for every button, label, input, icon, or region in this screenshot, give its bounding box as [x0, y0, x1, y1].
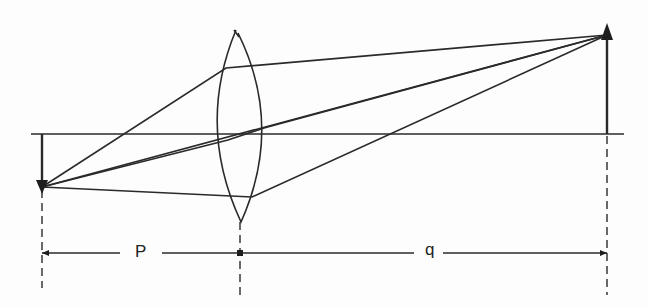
diagram-svg [0, 0, 648, 307]
lens-ray-diagram: P q [0, 0, 648, 307]
p-left-arrowhead-icon [42, 250, 49, 256]
q-distance-label: q [421, 241, 438, 259]
q-right-arrowhead-icon [600, 250, 607, 256]
image-arrowhead-icon [601, 23, 613, 40]
lens-dimension-marker [237, 250, 243, 256]
p-distance-label: P [131, 243, 150, 261]
convex-lens [217, 30, 262, 222]
